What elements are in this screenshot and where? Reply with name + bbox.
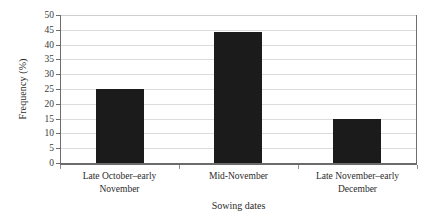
bar[interactable]: [96, 89, 144, 163]
y-axis-tick-label: 45: [30, 24, 54, 36]
y-axis-tick-label: 15: [30, 113, 54, 125]
y-axis-tick-label: 20: [30, 98, 54, 110]
y-axis-tick-label: 10: [30, 127, 54, 139]
x-axis-tick-labels: Late October–early NovemberMid-NovemberL…: [60, 170, 417, 198]
y-axis-title: Frequency (%): [16, 15, 30, 163]
y-axis-tick-label: 25: [30, 83, 54, 95]
x-axis-tick-mark: [298, 165, 299, 169]
y-axis-tick-label: 0: [30, 157, 54, 169]
x-axis-tick-mark: [60, 165, 61, 169]
bar-slot: [179, 15, 297, 163]
x-axis-tick-marks: [60, 165, 417, 169]
x-axis-tick-label: Late November–early December: [298, 170, 417, 198]
y-axis-tick-label: 5: [30, 142, 54, 154]
y-axis-tick-label: 40: [30, 39, 54, 51]
x-axis-tick-mark: [417, 165, 418, 169]
x-axis-tick-label: Late October–early November: [60, 170, 179, 198]
x-axis-tick-mark: [179, 165, 180, 169]
bar-series: [61, 15, 416, 163]
bar-slot: [298, 15, 416, 163]
bar[interactable]: [214, 32, 262, 163]
bar-slot: [61, 15, 179, 163]
y-axis-tick-labels: 05101520253035404550: [30, 15, 54, 163]
bar-chart: Frequency (%) 05101520253035404550 Late …: [0, 0, 434, 220]
y-axis-tick-label: 50: [30, 9, 54, 21]
x-axis-title: Sowing dates: [60, 199, 417, 212]
y-axis-tick-label: 30: [30, 68, 54, 80]
x-axis-tick-label: Mid-November: [179, 170, 298, 198]
plot-area: [60, 15, 417, 163]
y-axis-tick-label: 35: [30, 53, 54, 65]
bar[interactable]: [333, 119, 381, 163]
